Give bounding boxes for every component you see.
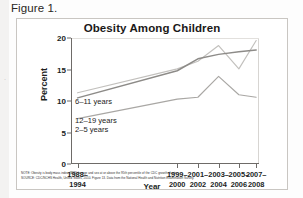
x-tick-mark: [219, 164, 220, 168]
x-tick-mark: [198, 164, 199, 168]
series-line: [78, 41, 257, 93]
page-root: · Figure 1. Obesity Among Children Perce…: [0, 0, 303, 198]
page-left-artifact-mark: ·: [4, 76, 11, 82]
series-label-6-11-years: 6–11 years: [75, 97, 112, 106]
chart-note: NOTE: Obesity is body mass index (BMI) f…: [21, 171, 283, 175]
x-tick-mark: [256, 164, 257, 168]
figure-label: Figure 1.: [11, 2, 57, 14]
figure-box: Obesity Among Children Percent 05101520 …: [16, 18, 288, 190]
page-left-margin-strip: [0, 0, 9, 198]
x-tick-mark: [177, 164, 178, 168]
series-label-2-5-years: 2–5 years: [75, 125, 108, 134]
plot-wrapper: 05101520 1988–19941999–20002001–20022003…: [71, 38, 259, 164]
x-tick-mark: [78, 164, 79, 168]
chart-title: Obesity Among Children: [17, 22, 287, 34]
x-tick-mark: [239, 164, 240, 168]
y-axis-label: Percent: [39, 68, 49, 101]
x-axis-label: Year: [17, 182, 287, 191]
series-label-12-19-years: 12–19 years: [75, 116, 117, 125]
chart-source: SOURCE: CDC/NCHS Health, United States, …: [21, 176, 283, 180]
